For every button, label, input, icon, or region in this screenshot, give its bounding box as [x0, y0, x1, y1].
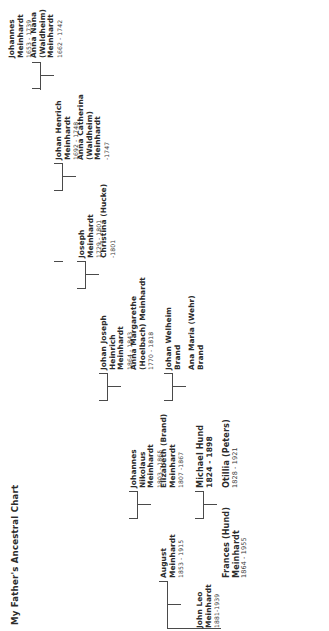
person-dates: 1881-1939	[213, 584, 220, 628]
person-dates: 1807 -1867	[177, 414, 184, 488]
union-stem	[203, 504, 217, 505]
person-card: Otillia (Peters) 1828 - 1921	[222, 419, 239, 488]
person-name-line: Meinhardt	[94, 94, 103, 160]
person-card: Anna Catherina (Waldheim) Meinhardt -174…	[77, 94, 110, 160]
person-name-line: Meinhardt	[169, 534, 178, 578]
person-dates: 1662 - 1742	[56, 9, 63, 58]
person-name-line: Meinhardt	[147, 444, 156, 488]
person-name-line: (Hoelbach) Meinhardt	[139, 277, 148, 370]
union-stem	[167, 604, 181, 605]
person-name-line: Meinhardt	[87, 214, 96, 258]
person-name-line: Meinhardt	[47, 9, 56, 58]
person-card: Johan Welheim Brand	[165, 307, 182, 370]
person-dates: 1864 - 1955	[241, 507, 249, 578]
person-name-line: Meinhardt	[205, 584, 214, 628]
person-dates: 1828 - 1921	[232, 419, 240, 488]
person-name-line: Meinhardt	[64, 101, 73, 161]
chart-title: My Father's Ancestral Chart	[10, 485, 20, 625]
person-card: Anna Nana (Waldheim) Meinhardt 1662 - 17…	[30, 9, 63, 58]
person-name-line: Brand	[174, 307, 183, 370]
person-card-subject: John Leo Meinhardt 1881-1939	[196, 584, 221, 628]
person-name-line: Meinhardt	[117, 315, 126, 370]
union-stem	[85, 274, 99, 275]
person-card: Ana Maria (Wehr) Brand	[188, 295, 205, 370]
person-card: Elizabeth (Brand) Meinhardt 1807 -1867	[160, 414, 185, 488]
person-name-line: Brand	[197, 295, 206, 370]
person-card: August Meinhardt 1853 - 1915	[160, 534, 185, 578]
union-stem	[62, 176, 76, 177]
person-card: Frances (Hund) Meinhardt 1864 - 1955	[222, 507, 249, 578]
union-arm	[167, 628, 221, 629]
person-dates: 1824 - 1898	[206, 425, 215, 488]
person-name-line: Meinhardt	[169, 414, 178, 488]
union-arm	[54, 261, 63, 262]
union-stem	[172, 386, 186, 387]
person-name-line: Meinhardt	[17, 14, 26, 58]
person-dates: -1747	[103, 94, 110, 160]
person-dates: 1770 - 1818	[147, 277, 154, 370]
ancestral-chart: Johannes Meinhardt 1653 - 1739 Anna Nana…	[0, 0, 329, 631]
person-card: Michael Hund 1824 - 1898	[196, 425, 215, 488]
person-dates: -1801	[109, 184, 116, 258]
union-stem	[137, 504, 151, 505]
person-card: Christina (Hucke) -1801	[100, 184, 116, 258]
union-stem	[40, 75, 54, 76]
person-name-line: Christina (Hucke)	[100, 184, 109, 258]
person-card: Anna Margarethe (Hoelbach) Meinhardt 177…	[130, 277, 155, 370]
person-dates: 1853 - 1915	[177, 534, 184, 578]
union-stem	[107, 386, 121, 387]
